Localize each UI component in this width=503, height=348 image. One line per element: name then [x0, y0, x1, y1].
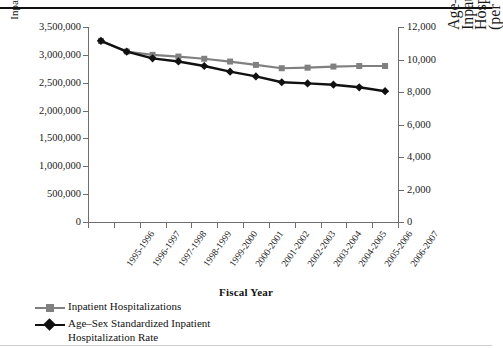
x-axis-category-labels: 1995-19961996-19971997-19981998-19991999… [88, 229, 398, 285]
series-layer [88, 27, 398, 223]
left-tick-label: 500,000 [47, 189, 81, 200]
right-tick [398, 60, 404, 61]
data-point-square [330, 64, 336, 70]
right-tick-label: 12,000 [407, 22, 436, 33]
right-tick-label: 8,000 [407, 87, 431, 98]
top-divider [0, 7, 492, 9]
left-tick-label: 1,500,000 [39, 133, 81, 144]
right-tick-label: 4,000 [407, 152, 431, 163]
right-tick-label: 10,000 [407, 55, 436, 66]
data-point-diamond [329, 81, 337, 89]
left-tick-label: 3,000,000 [39, 50, 81, 61]
y-axis-title-left: Inpatient Hospitalizations [8, 0, 21, 38]
left-tick-label: 0 [76, 217, 81, 228]
bottom-tick [398, 222, 399, 228]
left-tick-label: 2,000,000 [39, 106, 81, 117]
right-tick [398, 125, 404, 126]
data-point-diamond [381, 87, 389, 95]
y-axis-title-right-line1: Age–Sex Standardized Inpatient [447, 0, 474, 30]
data-point-diamond [252, 72, 260, 80]
legend-label-0: Inpatient Hospitalizations [68, 300, 181, 312]
data-point-square [305, 65, 311, 71]
legend-item-age-sex-standardized-rate: Age–Sex Standardized Inpatient Hospitali… [34, 317, 364, 344]
right-tick [398, 27, 404, 28]
data-point-square [253, 62, 259, 68]
data-point-diamond [200, 62, 208, 70]
y-axis-title-right-line3: (per 100,000 Population) [488, 0, 502, 30]
left-tick-label: 1,000,000 [39, 161, 81, 172]
data-point-square [201, 56, 207, 62]
legend-diamond-marker-icon [34, 318, 68, 331]
series-line [101, 41, 385, 68]
data-point-diamond [303, 79, 311, 87]
data-point-diamond [226, 68, 234, 76]
left-tick-label: 3,500,000 [39, 22, 81, 33]
legend-label-1-line2: Hospitalization Rate [68, 331, 158, 343]
x-axis-title: Fiscal Year [0, 286, 492, 298]
plot-area: 0500,0001,000,0001,500,0002,000,0002,500… [88, 27, 398, 222]
legend-square-marker-icon [34, 301, 68, 314]
data-point-diamond [355, 83, 363, 91]
right-tick [398, 157, 404, 158]
data-point-square [227, 59, 233, 65]
legend-item-inpatient-hospitalizations: Inpatient Hospitalizations [34, 300, 364, 314]
y-axis-title-right: Age–Sex Standardized Inpatient Hospitali… [447, 0, 501, 30]
data-point-square [356, 63, 362, 69]
right-tick [398, 92, 404, 93]
right-tick-label: 0 [407, 217, 412, 228]
legend-label-1-line1: Age–Sex Standardized Inpatient [68, 317, 210, 329]
data-point-square [382, 63, 388, 69]
right-tick-label: 2,000 [407, 185, 431, 196]
left-tick-label: 2,500,000 [39, 78, 81, 89]
right-tick [398, 190, 404, 191]
data-point-square [279, 65, 285, 71]
chart-legend: Inpatient Hospitalizations Age–Sex Stand… [34, 300, 364, 347]
data-point-diamond [278, 78, 286, 86]
right-tick-label: 6,000 [407, 120, 431, 131]
